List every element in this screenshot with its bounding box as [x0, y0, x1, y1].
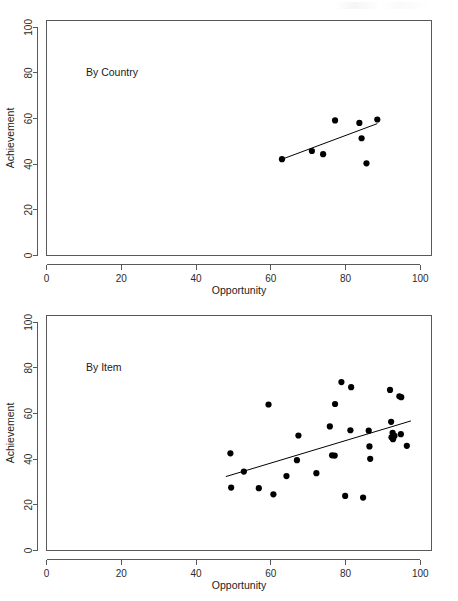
panel-annotation-by-item: By Item	[86, 361, 122, 373]
y-axis-by-item: 020406080100	[23, 314, 38, 554]
plot-content-by-country	[279, 116, 381, 166]
y-tick-label-by-country-1: 20	[23, 204, 34, 216]
x-axis-by-item: 020406080100	[44, 560, 429, 579]
data-point	[241, 468, 247, 474]
y-tick-label-by-country-0: 0	[23, 252, 34, 258]
data-point	[320, 151, 326, 157]
x-axis-by-country: 020406080100	[44, 265, 429, 284]
data-point	[374, 116, 380, 122]
data-point	[347, 427, 353, 433]
scatter-panel-by-country: 020406080100 020406080100 By Country Opp…	[0, 0, 458, 300]
data-point	[294, 457, 300, 463]
data-point	[227, 450, 233, 456]
plot-frame-by-country	[47, 21, 432, 256]
data-point	[270, 491, 276, 497]
data-point	[388, 419, 394, 425]
data-point	[366, 443, 372, 449]
data-point	[366, 428, 372, 434]
x-tick-label-by-item-3: 60	[265, 568, 277, 579]
y-tick-label-by-item-3: 60	[23, 408, 34, 420]
data-point	[398, 394, 404, 400]
x-tick-label-by-country-2: 40	[190, 273, 202, 284]
data-point	[313, 470, 319, 476]
data-point	[279, 156, 285, 162]
y-tick-label-by-country-5: 100	[23, 19, 34, 36]
regression-line-by-country	[282, 124, 377, 160]
x-tick-label-by-country-4: 80	[340, 273, 352, 284]
x-tick-label-by-country-5: 100	[412, 273, 429, 284]
data-point	[332, 452, 338, 458]
y-tick-label-by-item-0: 0	[23, 547, 34, 553]
x-tick-label-by-country-0: 0	[44, 273, 50, 284]
data-point	[404, 443, 410, 449]
data-point	[338, 379, 344, 385]
x-tick-label-by-country-1: 20	[116, 273, 128, 284]
y-tick-label-by-country-2: 40	[23, 158, 34, 170]
x-axis-title-by-item: Opportunity	[212, 579, 267, 591]
data-point	[332, 401, 338, 407]
data-point	[327, 423, 333, 429]
y-tick-label-by-item-2: 40	[23, 453, 34, 465]
x-tick-label-by-country-3: 60	[265, 273, 277, 284]
plot-content-by-item	[226, 379, 411, 501]
data-point	[348, 384, 354, 390]
x-tick-label-by-item-0: 0	[44, 568, 50, 579]
panel-annotation-by-country: By Country	[86, 66, 139, 78]
y-axis-title-by-item: Achievement	[4, 403, 16, 464]
data-point	[309, 148, 315, 154]
x-axis-title-by-country: Opportunity	[212, 284, 267, 296]
data-point	[228, 484, 234, 490]
x-tick-label-by-item-1: 20	[116, 568, 128, 579]
y-axis-by-country: 020406080100	[23, 19, 38, 259]
data-point	[363, 160, 369, 166]
y-axis-title-by-country: Achievement	[4, 108, 16, 169]
chart-svg-by-country: 020406080100 020406080100 By Country Opp…	[0, 0, 458, 300]
data-point	[359, 135, 365, 141]
data-point	[356, 120, 362, 126]
data-point	[367, 456, 373, 462]
x-tick-label-by-item-2: 40	[190, 568, 202, 579]
data-point	[295, 432, 301, 438]
data-point	[391, 433, 397, 439]
y-tick-label-by-country-3: 60	[23, 113, 34, 125]
scatter-panel-by-item: 020406080100 020406080100 By Item Opport…	[0, 300, 458, 600]
data-point	[265, 401, 271, 407]
plot-frame-by-item	[47, 316, 432, 551]
x-tick-label-by-item-5: 100	[412, 568, 429, 579]
chart-svg-by-item: 020406080100 020406080100 By Item Opport…	[0, 300, 458, 600]
regression-line-by-item	[226, 421, 411, 477]
data-point	[387, 387, 393, 393]
data-point	[360, 494, 366, 500]
y-tick-label-by-item-1: 20	[23, 499, 34, 511]
x-tick-label-by-item-4: 80	[340, 568, 352, 579]
y-tick-label-by-item-4: 80	[23, 362, 34, 374]
data-point	[398, 431, 404, 437]
data-point	[283, 473, 289, 479]
y-tick-label-by-country-4: 80	[23, 67, 34, 79]
data-point	[342, 493, 348, 499]
y-tick-label-by-item-5: 100	[23, 314, 34, 331]
data-point	[256, 485, 262, 491]
data-point	[332, 117, 338, 123]
